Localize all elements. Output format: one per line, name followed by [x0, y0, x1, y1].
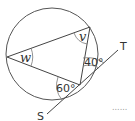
angle-w-label: w: [20, 50, 31, 65]
angle-v-label: v: [79, 29, 87, 44]
answer-dots: ......: [112, 103, 127, 112]
angle-60-label: 60°: [56, 82, 76, 95]
point-t-label: T: [119, 40, 127, 53]
chord-ac: [7, 57, 80, 85]
circle-theorem-diagram: w v 40° 60° T S ......: [0, 0, 135, 121]
angle-40-label: 40°: [84, 56, 104, 69]
angle-arc-w: [31, 48, 33, 66]
point-s-label: S: [37, 110, 44, 121]
